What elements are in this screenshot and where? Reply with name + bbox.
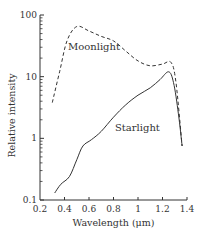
x-tick-label: 0.6 xyxy=(82,204,97,214)
x-axis-label: Wavelength (μm) xyxy=(72,217,154,228)
x-tick-label: 1.2 xyxy=(155,204,169,214)
x-tick-label: 1 xyxy=(135,204,141,214)
chart: 0.11101000.20.40.60.811.21.4Wavelength (… xyxy=(0,0,202,238)
y-tick-label: 100 xyxy=(20,10,37,20)
y-tick-label: 10 xyxy=(26,72,38,82)
labels-layer: MoonlightStarlight xyxy=(68,41,160,133)
x-tick-label: 0.2 xyxy=(33,204,47,214)
starlight-label: Starlight xyxy=(115,122,160,133)
x-tick-label: 1.4 xyxy=(180,204,195,214)
y-tick-label: 1 xyxy=(31,133,37,143)
x-tick-label: 0.4 xyxy=(57,204,72,214)
moonlight-label: Moonlight xyxy=(68,41,120,52)
y-axis-label: Relative intensity xyxy=(6,73,17,158)
x-tick-label: 0.8 xyxy=(106,204,121,214)
